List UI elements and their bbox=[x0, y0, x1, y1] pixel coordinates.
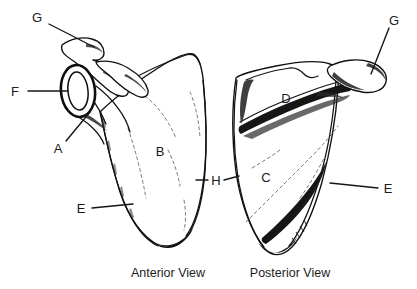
label-a-left: A bbox=[54, 141, 63, 156]
label-b-left: B bbox=[156, 144, 165, 159]
leader-e-right bbox=[330, 183, 378, 188]
label-d-right: D bbox=[281, 91, 290, 106]
label-h-middle: H bbox=[211, 173, 220, 188]
scapula-figure: G F A B E H G D C E Anterior View Poster… bbox=[0, 0, 417, 289]
label-e-left: E bbox=[77, 201, 86, 216]
label-f-left: F bbox=[11, 84, 19, 99]
scapula-diagram-canvas: G F A B E H G D C E Anterior View Poster… bbox=[0, 0, 417, 289]
anterior-glenoid-base bbox=[80, 118, 104, 144]
label-c-right: C bbox=[261, 170, 270, 185]
label-e-right: E bbox=[384, 181, 393, 196]
label-g-right: G bbox=[389, 13, 399, 28]
posterior-scapula-group bbox=[233, 60, 386, 255]
caption-anterior-view: Anterior View bbox=[131, 266, 206, 280]
label-g-left: G bbox=[32, 10, 42, 25]
caption-posterior-view: Posterior View bbox=[250, 266, 331, 280]
